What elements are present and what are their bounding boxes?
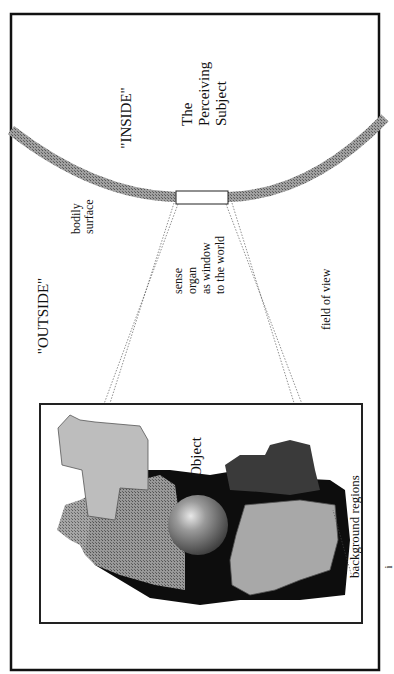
- object-sphere: [168, 495, 228, 555]
- inside-label: "INSIDE": [118, 87, 134, 148]
- diagram-stage: "INSIDE" The Perceiving Subject bodily s…: [0, 0, 394, 674]
- subject-label-line3: Subject: [213, 80, 229, 126]
- object-label: Object: [188, 436, 204, 477]
- bodily-surface-curve-right: [228, 118, 385, 197]
- subject-label-line1: The: [179, 102, 195, 126]
- bodily-label-line2: surface: [82, 199, 96, 234]
- sense-label-line1: sense: [171, 268, 185, 294]
- outside-label: "OUTSIDE": [35, 278, 51, 354]
- subject-label-line2: Perceiving: [196, 61, 212, 126]
- page-mark: i: [382, 565, 394, 568]
- sense-label-line4: to the world: [213, 236, 227, 294]
- sense-organ-window: [176, 191, 228, 204]
- bodily-surface-curve: [11, 130, 176, 197]
- sense-label-line3: as window: [199, 242, 213, 294]
- field-of-view-label: field of view: [319, 268, 333, 330]
- sense-label-line2: organ: [185, 267, 199, 294]
- background-regions-label: background regions: [347, 475, 362, 578]
- perception-diagram: "INSIDE" The Perceiving Subject bodily s…: [0, 0, 394, 674]
- bodily-label-line1: bodily: [69, 203, 83, 234]
